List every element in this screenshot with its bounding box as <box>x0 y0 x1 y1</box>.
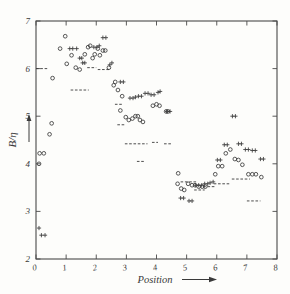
y-tick-label: 6 <box>26 64 31 74</box>
x-tick-label: 7 <box>242 262 249 273</box>
data-point-circle <box>112 83 116 87</box>
data-point-circle <box>103 49 107 53</box>
x-tick-label: 1 <box>61 262 67 273</box>
data-point-circle <box>247 172 251 176</box>
data-point-circle <box>241 163 245 167</box>
data-point-circle <box>70 53 74 57</box>
data-point-circle <box>78 68 82 72</box>
x-tick-label: 0 <box>31 262 38 273</box>
scatter-plot: 012345678234567B/ηPosition <box>0 0 290 294</box>
data-point-circle <box>51 76 55 80</box>
data-point-circle <box>228 148 232 152</box>
x-axis-label: Position <box>136 274 172 285</box>
data-point-circle <box>48 132 52 136</box>
y-tick-label: 4 <box>26 159 31 169</box>
data-point-circle <box>120 94 124 98</box>
data-point-circle <box>50 121 54 125</box>
data-point-circle <box>124 115 128 119</box>
data-point-circle <box>254 172 258 176</box>
y-tick-label: 2 <box>26 254 31 264</box>
x-tick-label: 8 <box>272 262 279 273</box>
data-point-circle <box>250 172 254 176</box>
data-point-circle <box>65 62 69 66</box>
data-point-circle <box>91 56 95 60</box>
data-point-circle <box>220 164 224 168</box>
data-point-circle <box>38 151 42 155</box>
series-plus <box>37 36 266 238</box>
figure-canvas: 012345678234567B/ηPosition <box>0 0 290 294</box>
data-point-circle <box>176 171 180 175</box>
data-point-circle <box>63 34 67 38</box>
x-axis-arrow-head <box>209 277 217 283</box>
data-point-circle <box>93 52 97 56</box>
data-point-circle <box>136 114 140 118</box>
x-tick-label: 2 <box>92 262 99 273</box>
data-point-circle <box>213 172 217 176</box>
data-point-circle <box>176 182 180 186</box>
data-point-circle <box>259 175 263 179</box>
data-point-circle <box>116 88 120 92</box>
series-circle <box>37 34 263 191</box>
data-point-circle <box>98 53 102 57</box>
data-point-circle <box>141 120 145 124</box>
x-tick-label: 5 <box>182 262 188 273</box>
data-point-circle <box>233 157 237 161</box>
x-tick-label: 4 <box>152 262 159 273</box>
data-point-circle <box>216 164 220 168</box>
data-point-circle <box>83 52 87 56</box>
data-point-circle <box>237 158 241 162</box>
data-point-circle <box>151 104 155 108</box>
data-point-circle <box>127 118 131 122</box>
data-point-circle <box>119 109 123 113</box>
data-point-circle <box>186 182 190 186</box>
data-point-circle <box>58 47 62 51</box>
data-point-circle <box>224 151 228 155</box>
data-point-circle <box>74 66 78 70</box>
y-tick-label: 3 <box>25 206 31 216</box>
y-tick-label: 7 <box>26 16 31 26</box>
data-point-circle <box>42 151 46 155</box>
x-tick-label: 3 <box>121 262 128 273</box>
x-tick-label: 6 <box>212 262 219 273</box>
y-axis-label: B/η <box>6 132 18 147</box>
